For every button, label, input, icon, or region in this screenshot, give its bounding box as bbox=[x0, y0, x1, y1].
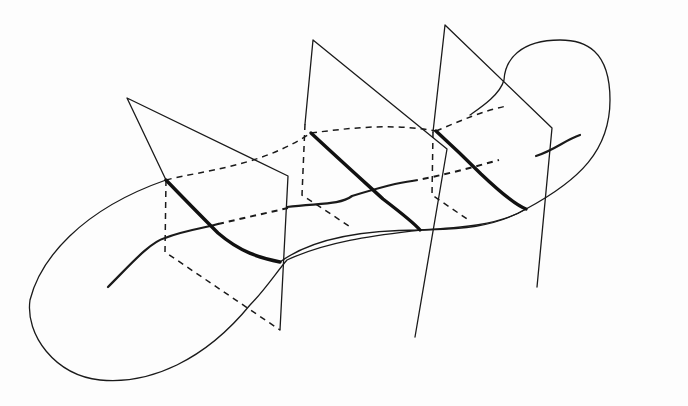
plane-1-hidden-edge bbox=[165, 180, 280, 330]
central-curve-segment-2 bbox=[287, 181, 412, 207]
slice-curve-1 bbox=[166, 180, 280, 262]
plane-3 bbox=[432, 25, 552, 287]
central-curve-hidden-1 bbox=[218, 208, 288, 224]
plane-3-outline bbox=[433, 25, 552, 287]
hidden-top-edge-3 bbox=[436, 106, 507, 131]
transverse-planes-diagram bbox=[0, 0, 688, 406]
central-curve-segment-3 bbox=[536, 135, 580, 156]
scanned-page bbox=[0, 0, 688, 406]
hidden-top-edge-1 bbox=[166, 133, 311, 180]
surface-lower-edge bbox=[280, 209, 526, 262]
plane-2-hidden-edge bbox=[302, 124, 352, 228]
central-curve-segment-1 bbox=[108, 224, 218, 287]
slice-curve-3 bbox=[436, 131, 526, 209]
hidden-top-edge-2 bbox=[311, 127, 436, 133]
